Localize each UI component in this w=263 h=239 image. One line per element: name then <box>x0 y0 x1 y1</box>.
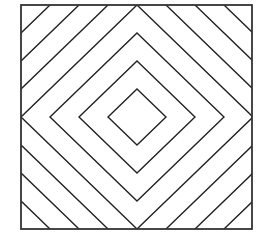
diamond-7 <box>0 0 263 239</box>
diagram-canvas <box>0 0 263 239</box>
diamond-5 <box>0 0 263 239</box>
diamond-1 <box>108 89 166 145</box>
diamond-3 <box>50 33 224 201</box>
diamond-lines <box>0 0 263 239</box>
concentric-diamonds-figure <box>0 0 263 239</box>
diamond-4 <box>21 5 253 229</box>
diamond-2 <box>79 61 195 173</box>
diamond-6 <box>0 0 263 239</box>
outer-square-border <box>21 5 252 229</box>
